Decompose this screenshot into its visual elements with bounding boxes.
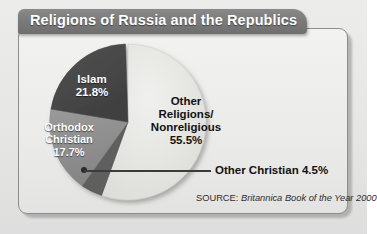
pie-label-orthodox-christian: Orthodox Christian 17.7% (26, 121, 112, 158)
pie-label-islam: Islam 21.8% (55, 73, 129, 99)
pie-label-other-religions: Other Religions/ Nonreligious 55.5% (140, 95, 232, 147)
source-prefix: SOURCE: (196, 193, 238, 203)
callout-leader-line (84, 170, 211, 172)
chart-title-tab: Religions of Russia and the Republics (18, 9, 307, 34)
source-value: Britannica Book of the Year 2000 (241, 193, 377, 203)
source-credit: SOURCE: Britannica Book of the Year 2000 (196, 193, 377, 203)
pie-label-other-christian: Other Christian 4.5% (215, 164, 328, 176)
page-title: Religions of Russia and the Republics (30, 12, 297, 28)
